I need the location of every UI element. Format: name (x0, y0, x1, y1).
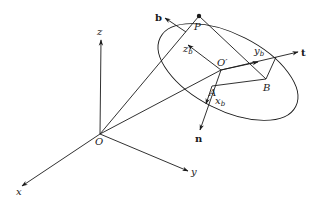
label-o: O (95, 136, 103, 147)
label-yb: yb (253, 45, 265, 58)
label-y: y (190, 166, 197, 177)
line-o-to-p (100, 16, 199, 134)
label-n-vector: n (195, 133, 203, 144)
y-axis (100, 134, 188, 171)
b-vector (165, 18, 186, 32)
label-oprime: O′ (217, 57, 228, 68)
label-b-vector: b (155, 12, 162, 23)
label-xb: xb (215, 95, 226, 108)
line-b-to-t (266, 57, 276, 79)
z-axis (100, 40, 101, 134)
osculating-ellipse (143, 4, 313, 141)
world-axes (22, 40, 188, 186)
line-a-to-b (212, 79, 266, 86)
label-t-vector: t (301, 47, 306, 58)
frenet-frame-diagram: z x y O O′ P A B b t n zb yb xb (0, 0, 318, 201)
label-x: x (16, 186, 22, 197)
label-p: P (193, 21, 201, 32)
label-zb: zb (182, 43, 193, 56)
label-z: z (96, 26, 103, 37)
label-b-point: B (262, 82, 270, 93)
x-axis (22, 134, 100, 186)
point-p-dot (197, 14, 201, 18)
